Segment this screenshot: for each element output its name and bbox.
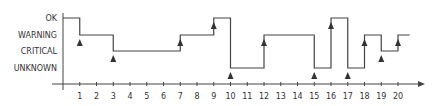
- event-marker-icon: [378, 55, 384, 62]
- x-tick-label: 16: [326, 92, 336, 101]
- event-marker-icon: [110, 55, 116, 62]
- event-marker-icon: [177, 39, 183, 46]
- state-step-chart: OK WARNING CRITICAL UNKNOWN 123456789101…: [0, 0, 444, 106]
- x-axis-ticks: 1234567891011121314151617181920: [77, 82, 403, 101]
- x-tick-label: 15: [309, 92, 319, 101]
- event-marker-icon: [311, 72, 317, 79]
- x-tick-label: 18: [359, 92, 369, 101]
- x-tick-label: 4: [127, 92, 132, 101]
- y-label-critical: CRITICAL: [21, 47, 58, 56]
- y-label-unknown: UNKNOWN: [14, 64, 57, 73]
- event-marker-icon: [77, 39, 83, 46]
- x-tick-label: 5: [144, 92, 149, 101]
- x-tick-label: 8: [194, 92, 199, 101]
- event-marker-icon: [328, 22, 334, 29]
- x-tick-label: 6: [161, 92, 166, 101]
- event-marker-icon: [211, 22, 217, 29]
- y-axis-labels: OK WARNING CRITICAL UNKNOWN: [14, 14, 58, 73]
- event-marker-icon: [345, 72, 351, 79]
- x-tick-label: 3: [111, 92, 116, 101]
- x-tick-label: 13: [276, 92, 286, 101]
- x-tick-label: 17: [343, 92, 353, 101]
- x-axis-arrow-icon: [418, 81, 425, 87]
- x-tick-label: 10: [225, 92, 235, 101]
- x-tick-label: 9: [211, 92, 216, 101]
- x-tick-label: 7: [178, 92, 183, 101]
- y-label-warning: WARNING: [18, 31, 57, 40]
- event-marker-icon: [362, 39, 368, 46]
- x-tick-label: 1: [77, 92, 82, 101]
- x-tick-label: 14: [292, 92, 302, 101]
- event-marker-icon: [261, 39, 267, 46]
- x-tick-label: 2: [94, 92, 99, 101]
- event-marker-icon: [395, 39, 401, 46]
- x-tick-label: 12: [259, 92, 269, 101]
- event-marker-icon: [228, 72, 234, 79]
- x-tick-label: 20: [393, 92, 403, 101]
- y-label-ok: OK: [45, 14, 57, 23]
- x-tick-label: 11: [242, 92, 252, 101]
- x-tick-label: 19: [376, 92, 386, 101]
